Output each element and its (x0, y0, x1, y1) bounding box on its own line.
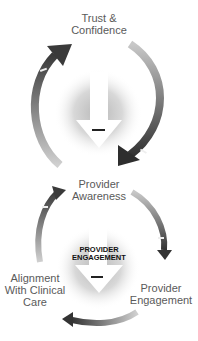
minus-icon (91, 276, 103, 278)
node-trust-confidence: Trust & Confidence (66, 12, 132, 36)
center-title-line: ENGAGEMENT (70, 254, 128, 262)
node-label-line: Provider (128, 282, 194, 294)
node-provider-awareness: Provider Awareness (64, 178, 134, 202)
node-label-line: Alignment (2, 272, 68, 284)
node-label-line: Confidence (66, 24, 132, 36)
node-label-line: Trust & (66, 12, 132, 24)
node-alignment-clinical-care: Alignment With Clinical Care (2, 272, 68, 308)
node-label-line: Provider (64, 178, 134, 190)
minus-icon (92, 129, 105, 131)
center-title-provider-engagement: PROVIDER ENGAGEMENT (70, 246, 128, 262)
node-label-line: Care (2, 296, 68, 308)
minus-icon (42, 206, 48, 208)
bottom-bottom-arc-arrow (62, 312, 137, 327)
node-provider-engagement: Provider Engagement (128, 282, 194, 306)
minus-icon (158, 237, 164, 239)
node-label-line: With Clinical (2, 284, 68, 296)
node-label-line: Engagement (128, 294, 194, 306)
bottom-right-arc-arrow (132, 192, 172, 260)
minus-icon (140, 149, 147, 154)
node-label-line: Awareness (64, 190, 134, 202)
